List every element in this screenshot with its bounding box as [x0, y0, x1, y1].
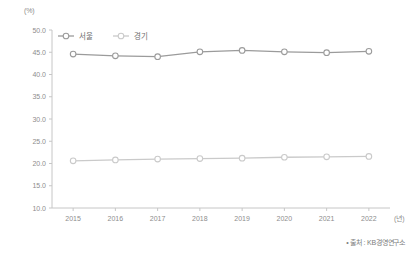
y-tick-label: 15.0 [32, 182, 46, 189]
x-tick-label: 2022 [361, 215, 377, 222]
data-series [70, 154, 371, 164]
data-point-marker [197, 49, 203, 55]
source-note: • 출처 : KB경영연구소 [346, 237, 405, 247]
legend-label: 경기 [134, 31, 148, 41]
x-tick-label: 2017 [150, 215, 166, 222]
x-tick-label: 2016 [108, 215, 124, 222]
data-point-marker [155, 156, 161, 162]
legend-item[interactable]: 서울 [58, 32, 93, 41]
x-axis-unit-label: (년) [394, 214, 405, 223]
x-tick-label: 2021 [319, 215, 335, 222]
data-point-marker [239, 48, 245, 54]
x-tick-label: 2015 [65, 215, 81, 222]
data-series [70, 48, 371, 60]
data-point-marker [113, 157, 119, 163]
x-tick-label: 2019 [234, 215, 250, 222]
data-point-marker [324, 50, 330, 56]
y-tick-label: 40.0 [32, 71, 46, 78]
data-point-marker [282, 49, 288, 55]
x-tick-label: 2020 [277, 215, 293, 222]
legend-marker-icon [118, 33, 124, 39]
data-series-group [70, 48, 371, 164]
legend-label: 서울 [79, 32, 93, 41]
data-point-marker [197, 156, 203, 162]
legend-item[interactable]: 경기 [113, 31, 148, 41]
data-point-marker [239, 155, 245, 161]
x-axis: 20152016201720182019202020212022(년) [52, 208, 405, 223]
data-point-marker [366, 154, 372, 160]
data-point-marker [70, 158, 76, 164]
y-axis: 10.015.020.025.030.035.040.045.050.0 [32, 27, 52, 212]
y-tick-label: 45.0 [32, 49, 46, 56]
y-tick-label: 25.0 [32, 138, 46, 145]
y-tick-label: 30.0 [32, 116, 46, 123]
data-point-marker [70, 51, 76, 57]
chart-legend: 서울경기 [58, 31, 148, 41]
y-tick-label: 20.0 [32, 160, 46, 167]
data-point-marker [113, 53, 119, 59]
y-tick-label: 35.0 [32, 93, 46, 100]
chart-container: (%) 10.015.020.025.030.035.040.045.050.0… [0, 0, 419, 259]
line-chart-svg: 10.015.020.025.030.035.040.045.050.0 201… [0, 0, 419, 259]
data-point-marker [366, 49, 372, 55]
data-point-marker [282, 154, 288, 160]
data-point-marker [324, 154, 330, 160]
data-point-marker [155, 54, 161, 60]
legend-marker-icon [63, 33, 69, 39]
y-tick-label: 50.0 [32, 27, 46, 34]
x-tick-label: 2018 [192, 215, 208, 222]
y-tick-label: 10.0 [32, 205, 46, 212]
